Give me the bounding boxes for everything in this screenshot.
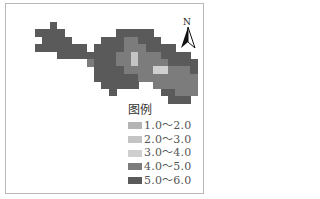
legend: 图例 1.0～2.0 2.0～3.0 3.0～4.0 4.0～5.0 5.0～6… xyxy=(128,104,191,187)
map-cell xyxy=(131,81,139,89)
legend-swatch xyxy=(128,150,142,157)
map-cell xyxy=(190,89,198,97)
legend-label: 4.0～5.0 xyxy=(144,161,191,173)
map-cell xyxy=(183,96,191,104)
legend-item: 2.0～3.0 xyxy=(128,133,191,147)
legend-label: 5.0～6.0 xyxy=(144,175,191,187)
legend-item: 4.0～5.0 xyxy=(128,160,191,174)
legend-item: 3.0～4.0 xyxy=(128,146,191,160)
legend-swatch xyxy=(128,163,142,170)
legend-swatch xyxy=(128,136,142,143)
legend-item: 1.0～2.0 xyxy=(128,119,191,133)
legend-title: 图例 xyxy=(128,104,191,117)
legend-item: 5.0～6.0 xyxy=(128,174,191,188)
north-arrow-icon xyxy=(178,27,198,49)
legend-swatch xyxy=(128,177,142,184)
legend-label: 3.0～4.0 xyxy=(144,147,191,159)
legend-label: 1.0～2.0 xyxy=(144,120,191,132)
north-label: N xyxy=(183,17,191,27)
legend-swatch xyxy=(128,122,142,129)
legend-label: 2.0～3.0 xyxy=(144,134,191,146)
map-cell xyxy=(109,89,117,97)
north-arrow: N xyxy=(178,17,198,49)
